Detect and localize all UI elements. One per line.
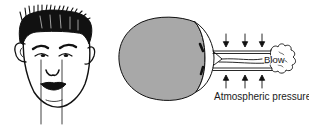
atmospheric-pressure-label: Atmospheric pressure (214, 92, 309, 102)
illustration-canvas (0, 0, 309, 125)
right-eyebrow (60, 45, 76, 48)
blow-label: Blow (264, 55, 285, 65)
face-illustration (15, 5, 95, 124)
pressure-arrows-bottom (224, 75, 265, 88)
hair (19, 10, 92, 44)
left-eyebrow (33, 46, 48, 49)
head-outline (23, 30, 89, 107)
pressure-arrows-top (224, 34, 265, 47)
eyeball (119, 17, 205, 100)
nose (46, 70, 59, 75)
